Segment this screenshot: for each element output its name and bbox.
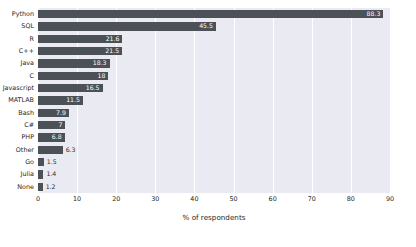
bar-row: 18.3 [38,57,110,69]
bar: 1.2 [38,183,43,191]
x-tick-label: 30 [151,196,159,202]
bar-value-label: 6.8 [52,134,62,140]
x-tick-label: 60 [269,196,277,202]
plot-area: 88.345.521.621.518.31816.511.57.976.86.3… [38,8,390,193]
bar: 21.6 [38,35,122,43]
bar: 1.4 [38,170,43,178]
category-label: Other [16,147,34,153]
category-label: C# [24,122,34,128]
bar-value-label: 88.3 [367,11,381,17]
category-label: None [17,184,34,190]
bar: 16.5 [38,84,103,92]
category-label: C [30,73,34,79]
bar: 88.3 [38,10,383,18]
bar-row: 6.3 [38,144,63,156]
category-label: Python [12,11,34,17]
bar: 6.8 [38,133,65,141]
x-tick-label: 70 [308,196,316,202]
bar-value-label: 1.4 [46,171,56,177]
bar: 1.5 [38,158,44,166]
bar-row: 88.3 [38,8,383,20]
x-axis-title: % of respondents [38,214,390,221]
x-tick-label: 50 [229,196,237,202]
bar-value-label: 21.5 [105,48,119,54]
bar: 6.3 [38,146,63,154]
bar: 18.3 [38,59,110,67]
bar: 7.9 [38,109,69,117]
bar-value-label: 16.5 [86,85,100,91]
category-label: Go [25,159,34,165]
bar-value-label: 45.5 [199,23,213,29]
bar: 18 [38,72,108,80]
bar-value-label: 21.6 [106,36,120,42]
bar-value-label: 6.3 [66,147,76,153]
bar-chart: 88.345.521.621.518.31816.511.57.976.86.3… [0,0,416,247]
bar-value-label: 7 [58,122,62,128]
bar-value-label: 1.5 [47,159,57,165]
x-tick-label: 0 [36,196,40,202]
bar-row: 18 [38,70,108,82]
gridline [390,8,391,193]
category-label: Java [21,60,35,66]
category-label: Bash [18,110,34,116]
x-tick-label: 20 [112,196,120,202]
bar-row: 1.2 [38,181,43,193]
bar: 45.5 [38,22,216,30]
category-label: MATLAB [8,97,34,103]
category-label: Julia [21,171,34,177]
bar-value-label: 18.3 [93,60,107,66]
bar: 11.5 [38,96,83,104]
x-tick-label: 80 [347,196,355,202]
bar-value-label: 1.2 [46,184,56,190]
bar-row: 11.5 [38,94,83,106]
category-label: Javascript [3,85,34,91]
bar-row: 21.5 [38,45,122,57]
category-label: R [30,36,34,42]
x-tick-label: 40 [190,196,198,202]
bar-row: 7.9 [38,107,69,119]
bar-value-label: 11.5 [66,97,80,103]
bars-layer: 88.345.521.621.518.31816.511.57.976.86.3… [38,8,390,193]
bar: 21.5 [38,47,122,55]
bar-row: 45.5 [38,20,216,32]
bar-row: 6.8 [38,131,65,143]
category-label: C++ [19,48,34,54]
bar-row: 16.5 [38,82,103,94]
category-label: PHP [21,134,34,140]
bar-row: 21.6 [38,33,122,45]
x-tick-label: 90 [386,196,394,202]
category-label: SQL [21,23,34,29]
bar-value-label: 7.9 [56,110,66,116]
bar-value-label: 18 [98,73,106,79]
bar-row: 1.4 [38,168,43,180]
bar-row: 7 [38,119,65,131]
bar: 7 [38,121,65,129]
bar-row: 1.5 [38,156,44,168]
x-tick-label: 10 [73,196,81,202]
